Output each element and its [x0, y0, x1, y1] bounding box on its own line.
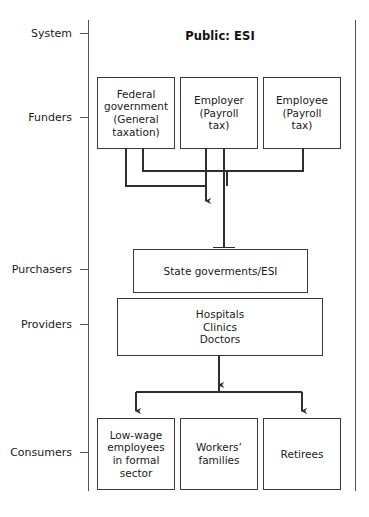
node-state-governments-label: State goverments/ESI [164, 265, 278, 278]
node-providers-label: Hospitals Clinics Doctors [196, 308, 244, 346]
node-workers-families: Workers’ families [180, 418, 258, 490]
tier-label-consumers-wrap: Consumers [0, 446, 72, 459]
node-employee-label: Employee (Payroll tax) [276, 94, 328, 132]
tier-label-purchasers: Purchasers [12, 263, 72, 276]
esi-health-system-diagram: System Funders Purchasers Providers Cons… [0, 0, 369, 517]
node-retirees-label: Retirees [281, 448, 324, 461]
node-federal-government-label: Federal government (General taxation) [104, 88, 168, 138]
node-employer: Employer (Payroll tax) [180, 77, 258, 149]
tier-label-purchasers-wrap: Purchasers [0, 263, 72, 276]
tier-label-providers-wrap: Providers [0, 318, 72, 331]
tier-label-consumers: Consumers [10, 446, 72, 459]
node-workers-families-label: Workers’ families [196, 441, 242, 466]
node-low-wage-employees: Low-wage employees in formal sector [97, 418, 175, 490]
flow-employee-to-pool [227, 149, 303, 171]
diagram-title: Public: ESI [96, 29, 344, 43]
node-state-governments: State goverments/ESI [133, 249, 308, 293]
tier-label-providers: Providers [21, 318, 72, 331]
node-low-wage-employees-label: Low-wage employees in formal sector [107, 429, 164, 479]
node-federal-government: Federal government (General taxation) [97, 77, 175, 149]
flow-federal-right-stub [143, 149, 227, 171]
node-retirees: Retirees [263, 418, 341, 490]
tier-label-system-wrap: System [0, 27, 72, 40]
flow-federal-to-pool [126, 149, 206, 186]
node-providers: Hospitals Clinics Doctors [117, 298, 323, 356]
tier-label-funders: Funders [28, 111, 72, 124]
tier-label-funders-wrap: Funders [0, 111, 72, 124]
node-employee: Employee (Payroll tax) [263, 77, 341, 149]
node-employer-label: Employer (Payroll tax) [194, 94, 244, 132]
tier-label-system: System [31, 27, 72, 40]
